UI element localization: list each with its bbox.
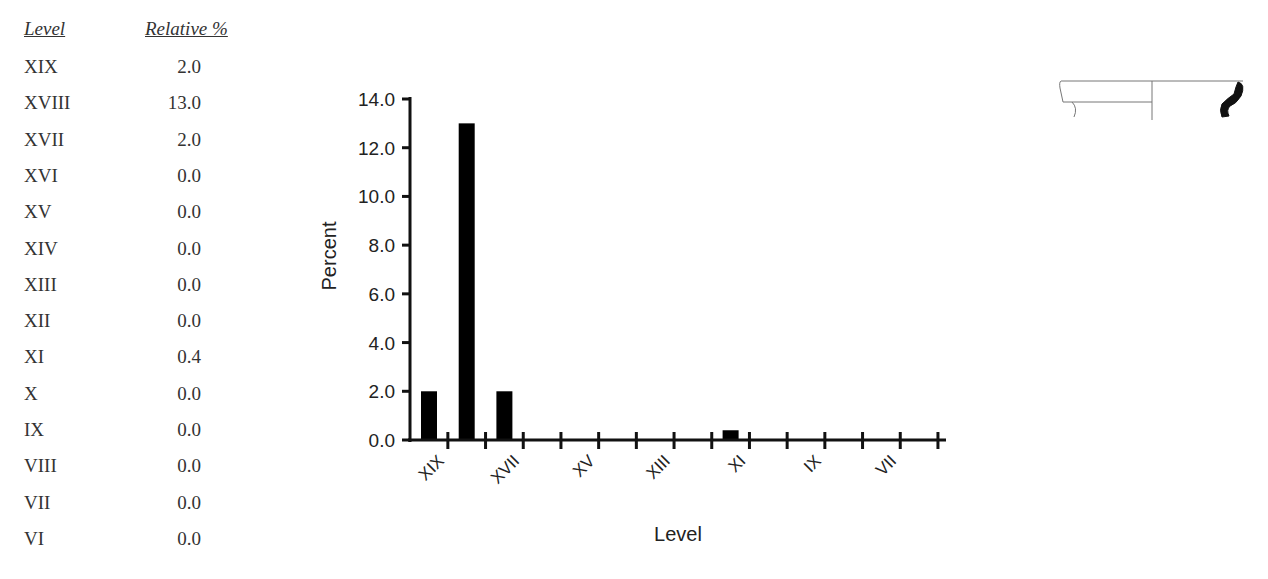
y-tick-label: 0.0 [369,430,395,451]
x-axis-label: Level [654,523,702,545]
bar-xix [421,391,437,440]
y-tick-label: 14.0 [358,89,395,110]
y-axis-label: Percent [318,221,340,290]
x-tick-label: XIX [415,451,448,484]
bar-xvii [496,391,512,440]
bars [421,123,739,440]
x-tick-label: VII [872,451,900,479]
x-tick-label: XIII [643,451,674,482]
y-tick-label: 12.0 [358,138,395,159]
y-tick-label: 8.0 [369,235,395,256]
bar-chart: 0.02.04.06.08.010.012.014.0 XIXXVIIXVXII… [0,0,1268,579]
x-tick-label: XV [569,451,599,481]
y-tick-label: 6.0 [369,284,395,305]
x-tick-label: XVII [487,451,523,487]
x-tick-label: IX [800,451,825,476]
vessel-profile-drawing [1060,81,1243,120]
x-tick-label: XI [725,451,750,476]
y-tick-label: 4.0 [369,333,395,354]
y-tick-label: 10.0 [358,186,395,207]
y-tick-label: 2.0 [369,381,395,402]
y-ticks: 0.02.04.06.08.010.012.014.0 [358,89,410,451]
bar-xviii [459,123,475,440]
